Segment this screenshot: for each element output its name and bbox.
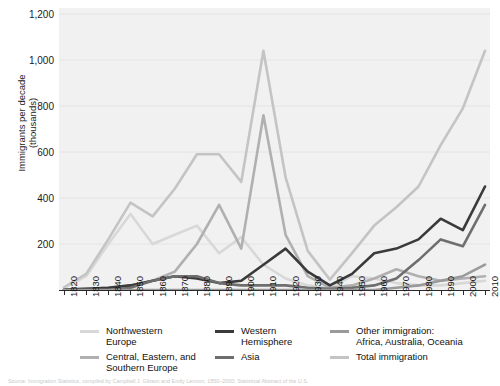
y-axis-tick-labels: 1,2001,000800600400200 [6, 0, 54, 300]
legend-swatch-icon [80, 330, 99, 333]
legend-swatch-icon [80, 356, 99, 359]
x-tickmark-1860 [153, 291, 154, 295]
chart-legend: Northwestern EuropeCentral, Eastern, and… [0, 326, 498, 374]
x-tick-2000: 2000 [467, 276, 478, 297]
legend-item-label: Northwestern Europe [106, 326, 210, 347]
x-tick-1840: 1840 [112, 276, 123, 297]
legend-swatch-icon [330, 330, 349, 333]
legend-item-label: Other immigration: Africa, Australia, Oc… [356, 326, 495, 347]
legend-item-label: Western Hemisphere [241, 326, 327, 347]
legend-item[interactable]: Central, Eastern, and Southern Europe [80, 352, 210, 373]
x-tickmark-2000 [463, 291, 464, 295]
legend-column-1: Northwestern EuropeCentral, Eastern, and… [80, 326, 210, 378]
y-tick-600: 600 [8, 147, 54, 158]
x-tickmark-1870 [175, 291, 176, 295]
legend-column-2: Western HemisphereAsia [215, 326, 327, 378]
legend-item-label: Central, Eastern, and Southern Europe [106, 352, 210, 373]
x-tick-2010: 2010 [489, 276, 500, 297]
legend-swatch-icon [215, 330, 234, 333]
x-tick-1850: 1850 [134, 276, 145, 297]
x-tickmark-1830 [86, 291, 87, 295]
x-tickmark-1890 [219, 291, 220, 295]
x-tick-1900: 1900 [245, 276, 256, 297]
legend-item-label: Total immigration [356, 352, 495, 363]
x-tickmark-1980 [419, 291, 420, 295]
x-tickmark-1960 [374, 291, 375, 295]
y-tick-1000: 1,000 [8, 55, 54, 66]
plot-area [59, 8, 490, 290]
x-tickmark-1950 [352, 291, 353, 295]
x-tick-1930: 1930 [312, 276, 323, 297]
legend-item[interactable]: Other immigration: Africa, Australia, Oc… [330, 326, 495, 347]
legend-column-3: Other immigration: Africa, Australia, Oc… [330, 326, 495, 378]
x-tick-1960: 1960 [378, 276, 389, 297]
x-tickmark-1930 [308, 291, 309, 295]
x-tick-1860: 1860 [157, 276, 168, 297]
legend-item[interactable]: Northwestern Europe [80, 326, 210, 347]
y-tick-1200: 1,200 [8, 9, 54, 20]
legend-swatch-icon [215, 356, 234, 359]
x-tickmark-1970 [396, 291, 397, 295]
x-tickmark-2010 [485, 291, 486, 295]
x-tick-1830: 1830 [90, 276, 101, 297]
x-tick-1950: 1950 [356, 276, 367, 297]
x-tickmark-1900 [241, 291, 242, 295]
series-line-western-hemisphere [64, 187, 485, 290]
x-tickmark-1940 [330, 291, 331, 295]
y-tick-200: 200 [8, 239, 54, 250]
x-tickmark-1990 [441, 291, 442, 295]
legend-item[interactable]: Western Hemisphere [215, 326, 327, 347]
x-tick-1880: 1880 [201, 276, 212, 297]
x-tickmark-1820 [64, 291, 65, 295]
y-tick-400: 400 [8, 193, 54, 204]
x-tickmark-1920 [286, 291, 287, 295]
x-tick-1990: 1990 [445, 276, 456, 297]
x-tick-1970: 1970 [400, 276, 411, 297]
series-line-central-eastern-and-southern-europe [64, 115, 485, 289]
y-tick-800: 800 [8, 101, 54, 112]
series-svg [59, 8, 490, 290]
source-note: Source: Immigration Statistics, compiled… [8, 378, 494, 384]
legend-item[interactable]: Total immigration [330, 352, 495, 373]
x-tick-1820: 1820 [68, 276, 79, 297]
x-tickmark-1880 [197, 291, 198, 295]
legend-swatch-icon [330, 356, 349, 359]
x-tick-1920: 1920 [290, 276, 301, 297]
x-tick-1980: 1980 [423, 276, 434, 297]
legend-item[interactable]: Asia [215, 352, 327, 373]
x-tickmark-1840 [108, 291, 109, 295]
x-tickmark-1910 [263, 291, 264, 295]
x-tick-1910: 1910 [267, 276, 278, 297]
x-tick-1890: 1890 [223, 276, 234, 297]
x-tick-1870: 1870 [179, 276, 190, 297]
x-tickmark-1850 [130, 291, 131, 295]
legend-item-label: Asia [241, 352, 327, 363]
x-tick-1940: 1940 [334, 276, 345, 297]
